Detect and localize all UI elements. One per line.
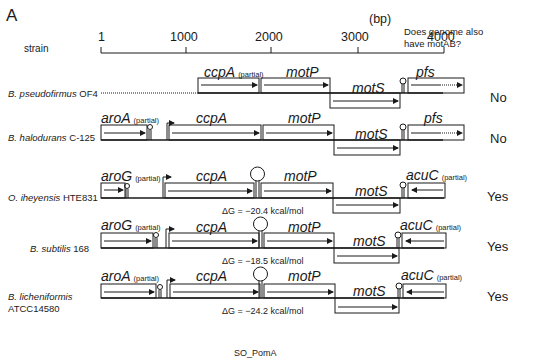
gene-map-graphic <box>0 0 559 360</box>
row-4-map <box>101 267 446 313</box>
row-3-map <box>101 217 446 263</box>
row-2-map <box>101 167 445 213</box>
row-1-map <box>101 123 464 155</box>
row-0-map <box>101 78 464 108</box>
scale-axis <box>101 47 444 53</box>
